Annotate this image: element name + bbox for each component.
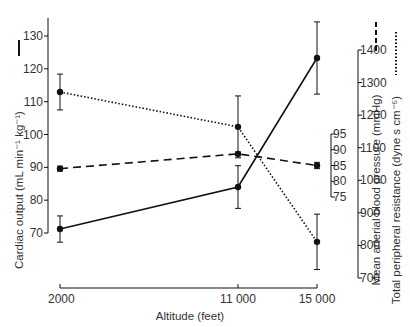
- x-tick-label: 15 000: [299, 292, 336, 306]
- series-layer: [57, 22, 320, 270]
- map-axis-title: Mean arterial blood pressure (mmHg): [370, 94, 382, 285]
- co-tick-label: 110: [24, 95, 43, 109]
- series-line-map: [60, 154, 317, 169]
- data-point: [314, 55, 320, 61]
- map-tick-label: 85: [333, 159, 347, 173]
- x-axis-title: Altitude (feet): [156, 310, 225, 322]
- map-tick-label: 75: [333, 190, 347, 204]
- x-tick-label: 2000: [48, 292, 75, 306]
- co-tick-label: 100: [23, 128, 43, 142]
- co-tick-label: 90: [30, 160, 44, 174]
- data-point: [57, 89, 63, 95]
- tpr-axis-title: Total peripheral resistance (dyne s cm⁻⁵…: [390, 96, 402, 304]
- map-tick-label: 95: [333, 127, 347, 141]
- x-tick-label: 11 000: [220, 292, 256, 306]
- data-point: [57, 226, 63, 232]
- tpr-tick-label: 1300: [360, 76, 387, 90]
- data-point: [314, 162, 320, 168]
- co-axis-title: Cardiac output (mL min⁻¹ kg⁻¹): [13, 111, 25, 269]
- labels-layer: 200011 00015 000Altitude (feet)708090100…: [13, 22, 402, 322]
- co-tick-label: 70: [30, 226, 44, 240]
- data-point: [314, 239, 320, 245]
- data-point: [57, 165, 63, 171]
- altitude-cardiovascular-chart: 200011 00015 000Altitude (feet)708090100…: [0, 0, 410, 327]
- co-tick-label: 130: [23, 29, 43, 43]
- map-tick-label: 80: [333, 174, 347, 188]
- tpr-tick-label: 1400: [360, 43, 387, 57]
- data-point: [235, 124, 241, 130]
- data-point: [235, 184, 241, 190]
- map-tick-label: 90: [333, 143, 347, 157]
- co-tick-label: 120: [23, 62, 43, 76]
- chart-canvas: 200011 00015 000Altitude (feet)708090100…: [0, 0, 410, 327]
- co-tick-label: 80: [30, 193, 44, 207]
- series-line-co: [60, 58, 317, 229]
